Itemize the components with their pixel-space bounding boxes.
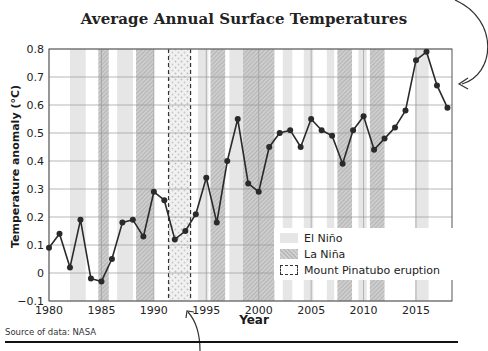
y-tick-label: 0.3	[27, 183, 45, 196]
data-point	[88, 276, 94, 282]
line-chart: −0.100.10.20.30.40.50.60.70.819801985199…	[0, 0, 488, 351]
data-point	[224, 158, 230, 164]
data-point	[371, 147, 377, 153]
el-nino-swatch	[280, 233, 298, 243]
data-point	[392, 124, 398, 130]
data-point	[109, 256, 115, 262]
data-point	[266, 144, 272, 150]
la-nina-swatch	[280, 249, 298, 259]
legend-label: El Niño	[304, 232, 343, 245]
y-tick-label: 0.7	[27, 71, 45, 84]
data-point	[98, 278, 104, 284]
y-tick-label: 0	[37, 267, 44, 280]
data-point	[423, 49, 429, 55]
curved-arrow-icon	[455, 0, 488, 84]
data-point	[182, 228, 188, 234]
data-point	[172, 236, 178, 242]
data-point	[235, 116, 241, 122]
data-point	[130, 217, 136, 223]
data-point	[56, 231, 62, 237]
data-point	[193, 211, 199, 217]
legend-label: Mount Pinatubo eruption	[304, 264, 440, 277]
data-point	[77, 217, 83, 223]
el-nino-band	[229, 49, 243, 301]
y-tick-label: 0.5	[27, 127, 45, 140]
data-point	[340, 161, 346, 167]
legend: El Niño La Niña Mount Pinatubo eruption	[274, 228, 460, 280]
data-point	[140, 234, 146, 240]
data-point	[67, 264, 73, 270]
data-point	[151, 189, 157, 195]
el-nino-band	[70, 49, 86, 301]
data-point	[319, 127, 325, 133]
data-point	[350, 127, 356, 133]
data-point	[382, 136, 388, 142]
data-point	[434, 82, 440, 88]
la-nina-band	[210, 49, 225, 301]
data-point	[361, 113, 367, 119]
legend-label: La Niña	[304, 248, 345, 261]
pinatubo-band	[169, 49, 191, 301]
x-axis-label: Year	[0, 313, 488, 327]
data-point	[277, 130, 283, 136]
y-tick-label: 0.4	[27, 155, 45, 168]
y-axis-label: Temperature anomaly (°C)	[9, 72, 22, 262]
data-point	[214, 220, 220, 226]
legend-item-pinatubo: Mount Pinatubo eruption	[280, 263, 440, 277]
y-tick-label: 0.1	[27, 239, 45, 252]
source-note: Source of data: NASA	[5, 327, 96, 337]
data-point	[308, 116, 314, 122]
data-point	[203, 175, 209, 181]
y-tick-label: 0.8	[27, 43, 45, 56]
data-point	[329, 133, 335, 139]
data-point	[119, 220, 125, 226]
y-tick-label: 0.6	[27, 99, 45, 112]
y-tick-label: 0.2	[27, 211, 45, 224]
la-nina-band	[98, 49, 108, 301]
data-point	[287, 127, 293, 133]
legend-item-la-nina: La Niña	[280, 247, 345, 261]
el-nino-band	[117, 49, 133, 301]
data-point	[444, 105, 450, 111]
pinatubo-swatch	[280, 265, 298, 275]
legend-item-el-nino: El Niño	[280, 231, 343, 245]
data-point	[46, 245, 52, 251]
data-point	[298, 144, 304, 150]
data-point	[245, 180, 251, 186]
data-point	[256, 189, 262, 195]
data-point	[161, 197, 167, 203]
data-point	[413, 57, 419, 63]
data-point	[403, 108, 409, 114]
la-nina-band	[136, 49, 154, 301]
